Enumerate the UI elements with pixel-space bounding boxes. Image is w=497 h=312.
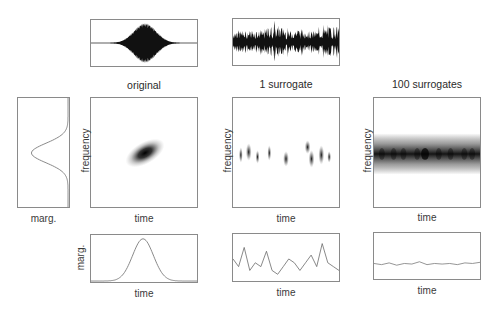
tf-100-surrogates-panel bbox=[373, 97, 481, 208]
tf-1-surrogate-heatmap bbox=[233, 98, 339, 207]
tf-original-panel bbox=[90, 97, 198, 208]
tf-1-surrogate-panel bbox=[232, 97, 340, 208]
original-waveform-panel bbox=[90, 19, 198, 67]
time-marginal-1-surrogate-panel bbox=[232, 233, 340, 282]
tf-1-surrogate-xlabel: time bbox=[232, 213, 340, 224]
time-marginal-1-surrogate-curve bbox=[233, 234, 339, 281]
column-title-1-surrogate: 1 surrogate bbox=[232, 78, 340, 90]
time-marginal-100-surrogates-xlabel: time bbox=[373, 285, 481, 296]
original-waveform bbox=[91, 20, 197, 66]
tf-original-xlabel: time bbox=[90, 213, 198, 224]
time-marginal-100-surrogates-curve bbox=[374, 233, 480, 279]
time-marginal-original-xlabel: time bbox=[90, 288, 198, 299]
time-marginal-100-surrogates-panel bbox=[373, 232, 481, 280]
column-title-100-surrogates: 100 surrogates bbox=[373, 78, 481, 90]
tf-1-surrogate-ylabel: frequency bbox=[222, 121, 233, 181]
time-marginal-original-curve bbox=[91, 235, 197, 282]
surrogate-waveform bbox=[233, 19, 339, 65]
tf-original-ylabel: frequency bbox=[80, 121, 91, 181]
surrogate-waveform-panel bbox=[232, 18, 340, 66]
frequency-marginal-panel bbox=[17, 97, 70, 208]
frequency-marginal-curve bbox=[18, 98, 69, 207]
time-marginal-original-panel bbox=[90, 234, 198, 283]
tf-100-surrogates-heatmap bbox=[374, 98, 480, 207]
column-title-original: original bbox=[90, 79, 198, 91]
time-marginal-1-surrogate-xlabel: time bbox=[232, 287, 340, 298]
tf-original-heatmap bbox=[91, 98, 197, 207]
tf-100-surrogates-ylabel: frequency bbox=[362, 121, 373, 181]
tf-100-surrogates-xlabel: time bbox=[373, 212, 481, 223]
time-marginal-ylabel: marg. bbox=[75, 238, 86, 278]
frequency-marginal-label: marg. bbox=[17, 213, 70, 224]
